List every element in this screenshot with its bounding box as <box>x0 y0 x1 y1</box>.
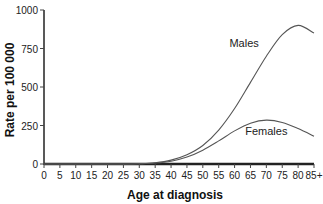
series-lines <box>44 25 314 164</box>
annotation-label: Males <box>229 37 259 49</box>
x-axis: 0510152025303540455055606570758085+ <box>41 164 322 181</box>
y-tick-label: 750 <box>21 44 38 55</box>
x-tick-label: 55 <box>213 170 225 181</box>
x-tick-label: 20 <box>102 170 114 181</box>
y-tick-label: 0 <box>32 159 38 170</box>
x-tick-label: 5 <box>57 170 63 181</box>
x-tick-label: 65 <box>245 170 257 181</box>
x-tick-label: 85+ <box>306 170 323 181</box>
x-tick-label: 50 <box>197 170 209 181</box>
annotation-label: Females <box>245 125 288 137</box>
x-tick-label: 75 <box>277 170 289 181</box>
y-tick-label: 1000 <box>16 5 39 16</box>
y-axis-label: Rate per 100 000 <box>3 42 17 137</box>
x-tick-label: 60 <box>229 170 241 181</box>
x-tick-label: 80 <box>293 170 305 181</box>
y-tick-label: 250 <box>21 121 38 132</box>
x-tick-label: 0 <box>41 170 47 181</box>
x-tick-label: 15 <box>86 170 98 181</box>
x-tick-label: 45 <box>181 170 193 181</box>
x-tick-label: 70 <box>261 170 273 181</box>
series-line-males <box>44 25 314 164</box>
x-axis-label: Age at diagnosis <box>127 188 223 202</box>
x-tick-label: 25 <box>118 170 130 181</box>
line-chart: 02505007501000 0510152025303540455055606… <box>0 0 323 204</box>
x-tick-label: 10 <box>70 170 82 181</box>
y-tick-label: 500 <box>21 82 38 93</box>
x-tick-label: 40 <box>165 170 177 181</box>
x-tick-label: 35 <box>150 170 162 181</box>
x-tick-label: 30 <box>134 170 146 181</box>
y-axis: 02505007501000 <box>16 5 44 170</box>
